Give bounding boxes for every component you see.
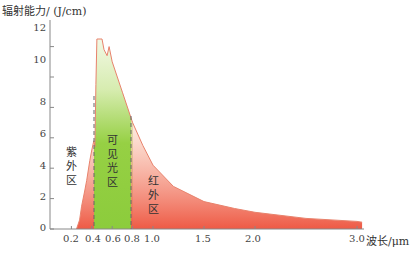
- y-tick-8: 8: [30, 96, 46, 107]
- x-tick-1-5: 1.5: [191, 233, 215, 244]
- x-axis-label: 波长/μm: [366, 232, 409, 248]
- y-tick-6: 6: [30, 128, 46, 139]
- visible-fill: [94, 14, 133, 229]
- uv-region-label: 紫 外 区: [65, 146, 77, 188]
- y-tick-marks: [50, 47, 54, 229]
- uv-fill: [51, 14, 95, 229]
- y-tick-12: 12: [30, 22, 46, 33]
- y-tick-10: 10: [30, 54, 46, 65]
- visible-region-label: 可 见 光 区: [106, 134, 118, 190]
- x-tick-1-0: 1.0: [140, 233, 164, 244]
- ir-region-label: 红 外 区: [147, 175, 159, 217]
- chart-plot-area: [0, 0, 420, 263]
- fill-areas: [51, 14, 371, 229]
- y-tick-0: 0: [30, 222, 46, 233]
- x-tick-2-0: 2.0: [241, 233, 265, 244]
- y-tick-4: 4: [30, 160, 46, 171]
- ir-fill: [131, 14, 371, 229]
- x-tick-0-2: 0.2: [59, 233, 83, 244]
- y-tick-2: 2: [30, 191, 46, 202]
